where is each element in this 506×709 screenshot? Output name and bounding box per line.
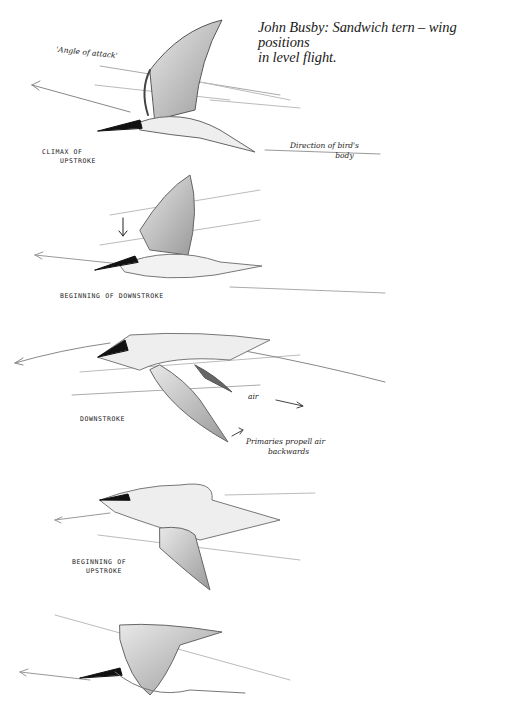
annotation-line-1: Direction of bird's — [290, 141, 359, 151]
sandwich-tern-sketches — [0, 0, 506, 709]
tern-sketch-final-position — [20, 615, 290, 695]
tern-sketch-climax-of-upstroke — [32, 20, 380, 154]
annotation-line-1: Primaries propell air — [246, 437, 325, 447]
label-beginning-of-upstroke: Beginning of upstroke — [72, 558, 126, 576]
label-downstroke: Downstroke — [80, 415, 125, 424]
annotation-line-2: body — [290, 151, 359, 161]
direction-of-body-annotation: Direction of bird's body — [290, 141, 359, 161]
label-beginning-of-downstroke: Beginning of downstroke — [60, 292, 164, 301]
label-line-2: upstroke — [72, 567, 126, 576]
label-climax-of-upstroke: Climax of upstroke — [42, 148, 96, 166]
label-line-2: upstroke — [42, 157, 96, 166]
annotation-line-2: backwards — [246, 447, 325, 457]
air-annotation: air — [248, 392, 258, 402]
label-line-1: Beginning of — [72, 558, 126, 567]
primaries-annotation: Primaries propell air backwards — [246, 437, 325, 457]
tern-sketch-beginning-of-downstroke — [35, 175, 385, 293]
tern-sketch-downstroke — [15, 333, 385, 442]
label-line-1: Climax of — [42, 148, 96, 157]
